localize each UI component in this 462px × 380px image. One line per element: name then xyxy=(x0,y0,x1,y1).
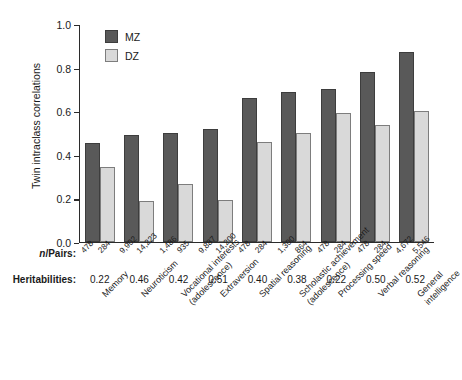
bar-dz xyxy=(336,113,351,242)
legend-swatch-mz xyxy=(105,30,118,43)
bar-dz xyxy=(257,142,272,242)
category-label: Neuroticism xyxy=(119,292,158,372)
bar-group xyxy=(237,25,276,242)
legend-swatch-dz xyxy=(105,49,118,62)
bar-mz xyxy=(360,72,375,242)
category-label: Scholastic achievement(adolescence) xyxy=(277,292,316,372)
bar-mz xyxy=(399,52,414,242)
bar-group xyxy=(277,25,316,242)
bar-mz xyxy=(242,98,257,242)
bar-mz xyxy=(163,133,178,242)
y-tick-mark xyxy=(74,156,79,157)
y-tick-label: 0.4 xyxy=(56,150,71,162)
legend-label-dz: DZ xyxy=(125,50,139,62)
bar-group xyxy=(198,25,237,242)
y-tick-label: 0.6 xyxy=(56,106,71,118)
bar-group xyxy=(316,25,355,242)
heritabilities-row-label: Heritabilities: xyxy=(0,274,76,285)
npairs-row-label: n/Pairs: xyxy=(0,248,76,259)
category-label: Verbal reasoning xyxy=(356,292,395,372)
bar-group xyxy=(355,25,394,242)
bar-dz xyxy=(296,133,311,242)
category-label: Processing speed xyxy=(317,292,356,372)
y-tick-mark xyxy=(74,199,79,200)
category-label: Memory xyxy=(80,292,119,372)
y-tick-mark xyxy=(74,25,79,26)
category-label: Generalintelligence xyxy=(396,292,435,372)
category-label: Vocational interests(adolescence) xyxy=(159,292,198,372)
y-axis-title: Twin intraclass correlations xyxy=(30,26,42,226)
bar-group xyxy=(159,25,198,242)
npairs-group: 478284 xyxy=(80,248,119,264)
bar-mz xyxy=(203,129,218,242)
category-label: Spatial reasoning xyxy=(238,292,277,372)
bar-dz xyxy=(414,111,429,242)
category-label-text: Generalintelligence xyxy=(415,260,462,307)
bar-dz xyxy=(375,125,390,242)
legend-item-dz: DZ xyxy=(105,49,140,62)
bar-mz xyxy=(85,143,100,242)
bar-mz xyxy=(281,92,296,242)
bar-mz xyxy=(124,135,139,242)
bar-group xyxy=(395,25,434,242)
y-tick-mark xyxy=(74,69,79,70)
bar-dz xyxy=(100,167,115,242)
npairs-italic-n: n xyxy=(39,248,45,259)
y-tick-mark xyxy=(74,243,79,244)
category-label: Extraversion xyxy=(198,292,237,372)
bar-mz xyxy=(321,89,336,242)
legend-label-mz: MZ xyxy=(125,31,140,43)
legend: MZ DZ xyxy=(105,30,140,68)
legend-item-mz: MZ xyxy=(105,30,140,43)
category-labels-row: MemoryNeuroticismVocational interests(ad… xyxy=(80,292,435,372)
bar-dz xyxy=(178,184,193,242)
npairs-group: 1,486935 xyxy=(159,248,198,264)
y-tick-label: 1.0 xyxy=(56,19,71,31)
npairs-group: 9,90214,223 xyxy=(119,248,158,264)
y-tick-label: 0.2 xyxy=(56,193,71,205)
y-tick-label: 0.8 xyxy=(56,63,71,75)
y-tick-mark xyxy=(74,112,79,113)
